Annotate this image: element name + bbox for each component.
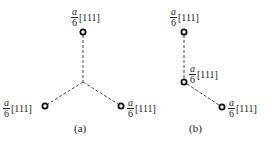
line-b-diagonal — [187, 84, 219, 105]
dislocation-diagram — [0, 0, 266, 143]
line-a-right — [83, 82, 118, 104]
node-b-bottom-right — [219, 104, 224, 109]
label-a-left: a6 [111] — [3, 98, 32, 119]
label-a-top: a6 [111] — [71, 7, 100, 28]
node-a-top — [80, 29, 85, 34]
node-b-top — [181, 29, 186, 34]
label-b-bottom-right: a6 [111] — [228, 98, 257, 119]
caption-b: (b) — [189, 122, 202, 134]
line-a-left — [48, 82, 83, 104]
label-b-top: a6 [111] — [170, 7, 199, 28]
node-a-right — [118, 103, 123, 108]
node-b-middle — [181, 79, 186, 84]
label-b-middle: a6 [111] — [189, 64, 218, 85]
panel-a-lines — [48, 35, 118, 104]
label-a-right: a6 [111] — [127, 98, 156, 119]
node-a-left — [42, 103, 47, 108]
caption-a: (a) — [74, 122, 86, 134]
